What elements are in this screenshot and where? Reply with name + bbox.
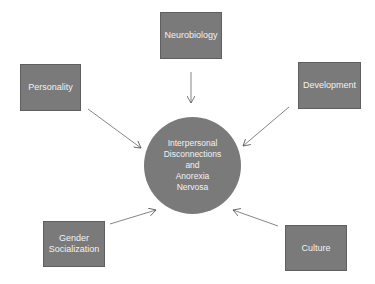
node-label: Culture bbox=[301, 243, 330, 254]
node-development: Development bbox=[298, 62, 361, 109]
arrow-gender-socialization bbox=[110, 210, 156, 224]
node-label: Development bbox=[303, 80, 356, 91]
node-label: Personality bbox=[28, 82, 73, 93]
node-label: Gender Socialization bbox=[49, 233, 100, 255]
node-culture: Culture bbox=[285, 225, 347, 271]
center-label: Interpersonal Disconnections and Anorexi… bbox=[164, 138, 222, 193]
node-neurobiology: Neurobiology bbox=[160, 12, 222, 59]
arrow-culture bbox=[233, 210, 278, 226]
node-personality: Personality bbox=[20, 64, 81, 111]
arrow-development bbox=[243, 107, 289, 146]
center-node: Interpersonal Disconnections and Anorexi… bbox=[144, 117, 241, 214]
node-gender-socialization: Gender Socialization bbox=[43, 221, 105, 267]
node-label: Neurobiology bbox=[164, 30, 217, 41]
arrow-personality bbox=[88, 109, 141, 148]
